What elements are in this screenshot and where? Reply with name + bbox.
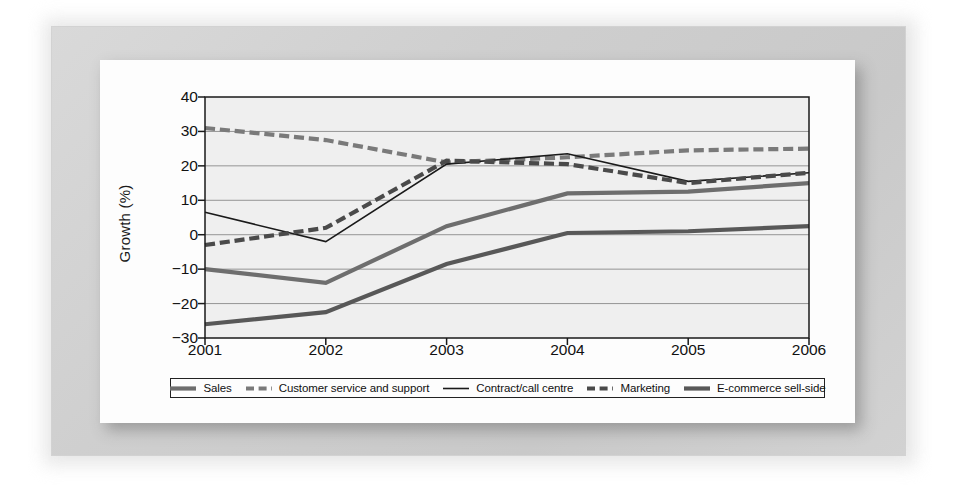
y-tick-label: 0 — [189, 226, 198, 244]
legend-label: Marketing — [620, 382, 670, 394]
x-tick-label: 2003 — [429, 341, 463, 359]
plot-background — [205, 97, 809, 338]
legend-item: E-commerce sell-side — [683, 382, 826, 394]
legend-item: Sales — [169, 382, 231, 394]
x-tick-label: 2006 — [792, 341, 826, 359]
legend-item: Contract/call centre — [442, 382, 573, 394]
legend-swatch-icon — [169, 383, 197, 394]
chart-card: Growth (%) 403020100−10−20−30 SalesCusto… — [100, 60, 855, 423]
y-tick-label: −10 — [172, 260, 198, 278]
legend-label: Contract/call centre — [476, 382, 573, 394]
legend-item: Customer service and support — [245, 382, 430, 394]
y-tick-label: 10 — [181, 191, 198, 209]
x-tick-label: 2002 — [309, 341, 343, 359]
y-tick-label: 30 — [181, 122, 198, 140]
y-tick-label: 20 — [181, 157, 198, 175]
line-chart: Growth (%) 403020100−10−20−30 SalesCusto… — [100, 60, 855, 423]
legend-label: E-commerce sell-side — [717, 382, 826, 394]
x-tick-label: 2004 — [550, 341, 584, 359]
legend-swatch-icon — [586, 383, 614, 394]
legend-label: Customer service and support — [279, 382, 430, 394]
chart-legend: SalesCustomer service and supportContrac… — [170, 378, 825, 398]
y-tick-label: 40 — [181, 88, 198, 106]
x-tick-label: 2001 — [188, 341, 222, 359]
x-tick-label: 2005 — [671, 341, 705, 359]
plot-area — [100, 60, 855, 423]
legend-swatch-icon — [442, 383, 470, 394]
legend-swatch-icon — [683, 383, 711, 394]
legend-swatch-icon — [245, 383, 273, 394]
y-tick-label: −20 — [172, 295, 198, 313]
legend-label: Sales — [203, 382, 231, 394]
legend-item: Marketing — [586, 382, 670, 394]
y-axis-tick-labels: 403020100−10−20−30 — [120, 60, 198, 423]
